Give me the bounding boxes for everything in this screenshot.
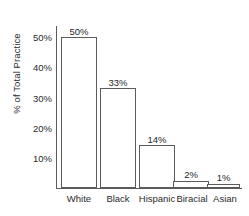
y-tick-label-50: 50% (18, 33, 52, 43)
bar-value-white: 50% (61, 26, 97, 37)
y-tick-label-40: 40% (18, 63, 52, 73)
bar-value-biracial: 2% (173, 169, 209, 180)
bar-white (61, 37, 97, 188)
bar-chart: % of Total Practice 50% 40% 30% 20% 10% … (0, 0, 249, 216)
y-axis-tick-labels: 50% 40% 30% 20% 10% (18, 0, 52, 216)
bar-black (100, 88, 136, 188)
y-tick-label-20: 20% (18, 124, 52, 134)
bar-value-hispanic: 14% (139, 134, 175, 145)
x-axis-line (56, 188, 242, 189)
plot-area: 50% 33% 14% 2% 1% (56, 26, 242, 189)
bar-value-asian: 1% (207, 172, 240, 183)
x-axis-category-labels: White Black Hispanic Biracial Asian (56, 193, 242, 207)
bar-hispanic (139, 145, 175, 188)
y-tick-label-30: 30% (18, 94, 52, 104)
bar-asian (207, 184, 240, 188)
y-tick-label-10: 10% (18, 154, 52, 164)
y-axis-line (56, 26, 57, 189)
bar-value-black: 33% (100, 77, 136, 88)
x-label-asian: Asian (206, 193, 244, 204)
bar-biracial (173, 181, 209, 188)
x-label-white: White (57, 193, 101, 204)
